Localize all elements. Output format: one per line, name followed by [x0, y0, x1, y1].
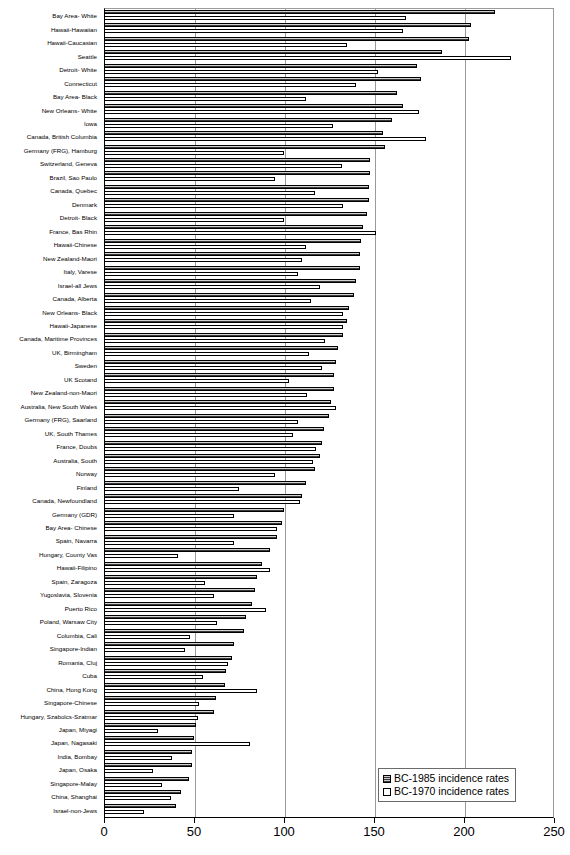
bar-1970: [104, 43, 347, 47]
category-label: Finland: [0, 484, 97, 491]
bar-1985: [104, 763, 192, 767]
category-label: Spain, Zaragoza: [0, 578, 97, 585]
bar-1970: [104, 83, 356, 87]
category-label: India, Bombay: [0, 753, 97, 760]
bar-1985: [104, 494, 302, 498]
bar-1985: [104, 185, 369, 189]
bar-row: [104, 372, 554, 385]
legend-item: BC-1970 incidence rates: [383, 785, 509, 798]
bar-1985: [104, 387, 334, 391]
x-tick-mark: [554, 818, 555, 823]
bar-1985: [104, 521, 282, 525]
bar-row: [104, 278, 554, 291]
bar-row: [104, 130, 554, 143]
bar-row: [104, 601, 554, 614]
category-label: Yugoslavia, Slovenia: [0, 591, 97, 598]
category-label: Spain, Navarra: [0, 537, 97, 544]
category-label: New Orleans- Black: [0, 309, 97, 316]
bar-1970: [104, 568, 270, 572]
bar-1970: [104, 272, 298, 276]
bar-1970: [104, 635, 190, 639]
x-tick-mark: [284, 818, 285, 823]
bar-1970: [104, 648, 185, 652]
bar-1985: [104, 279, 356, 283]
category-label: Detroit- Black: [0, 214, 97, 221]
bar-1985: [104, 467, 315, 471]
bar-1970: [104, 177, 275, 181]
bar-1985: [104, 118, 392, 122]
bar-row: [104, 587, 554, 600]
category-label: Israel-non-Jews: [0, 807, 97, 814]
category-label: Canada, British Columbia: [0, 133, 97, 140]
bar-1970: [104, 689, 257, 693]
bar-1985: [104, 158, 370, 162]
bar-1970: [104, 191, 315, 195]
bar-row: [104, 440, 554, 453]
bar-1970: [104, 393, 307, 397]
bar-1985: [104, 615, 246, 619]
bar-1985: [104, 602, 252, 606]
bar-1985: [104, 548, 270, 552]
bar-1970: [104, 433, 293, 437]
category-label: Japan, Nagasaki: [0, 739, 97, 746]
bar-1970: [104, 581, 205, 585]
category-label: Denmark: [0, 201, 97, 208]
category-label: New Zealand-non-Maori: [0, 389, 97, 396]
category-label: Australia, South: [0, 457, 97, 464]
bar-1970: [104, 514, 234, 518]
bar-1970: [104, 742, 250, 746]
category-label: New Zealand-Maori: [0, 255, 97, 262]
category-label: Switzerland, Geneva: [0, 160, 97, 167]
category-label: Detroit- White: [0, 66, 97, 73]
bar-row: [104, 76, 554, 89]
category-label: Bay Area- Black: [0, 93, 97, 100]
bar-1970: [104, 716, 198, 720]
legend-item: BC-1985 incidence rates: [383, 772, 509, 785]
bar-1985: [104, 481, 306, 485]
bar-row: [104, 480, 554, 493]
bar-row: [104, 534, 554, 547]
bar-1985: [104, 750, 192, 754]
category-label: Germany (FRG), Hamburg: [0, 147, 97, 154]
category-label: Brazil, Sao Paulo: [0, 174, 97, 181]
bar-row: [104, 735, 554, 748]
bar-1970: [104, 473, 275, 477]
bar-1970: [104, 70, 378, 74]
bar-1970: [104, 258, 302, 262]
bar-row: [104, 63, 554, 76]
chart-legend: BC-1985 incidence rates BC-1970 incidenc…: [378, 768, 516, 802]
x-tick-label: 250: [543, 824, 565, 839]
category-label: Japan, Osaka: [0, 766, 97, 773]
bar-1970: [104, 366, 322, 370]
bar-row: [104, 520, 554, 533]
category-label: Israel-all Jews: [0, 282, 97, 289]
x-tick-label: 150: [363, 824, 385, 839]
bar-row: [104, 144, 554, 157]
bar-1985: [104, 50, 442, 54]
bar-row: [104, 709, 554, 722]
category-label: Canada, Quebec: [0, 187, 97, 194]
bar-row: [104, 803, 554, 816]
bar-1985: [104, 293, 354, 297]
x-tick-label: 200: [453, 824, 475, 839]
bar-1970: [104, 406, 336, 410]
bar-1985: [104, 508, 284, 512]
bar-1970: [104, 312, 343, 316]
bar-1970: [104, 621, 217, 625]
bar-1985: [104, 669, 226, 673]
bar-1970: [104, 702, 199, 706]
category-label: Canada, Newfoundland: [0, 497, 97, 504]
x-tick-mark: [374, 818, 375, 823]
category-label: Sweden: [0, 362, 97, 369]
category-label: Singapore-Indian: [0, 645, 97, 652]
category-label: Cuba: [0, 672, 97, 679]
bar-row: [104, 157, 554, 170]
bar-row: [104, 641, 554, 654]
category-label: Norway: [0, 470, 97, 477]
category-label: Hawaii-Japanese: [0, 322, 97, 329]
bar-row: [104, 614, 554, 627]
bar-1985: [104, 104, 403, 108]
bar-1985: [104, 171, 370, 175]
category-label: Hawaii-Filipino: [0, 564, 97, 571]
bar-1985: [104, 266, 360, 270]
